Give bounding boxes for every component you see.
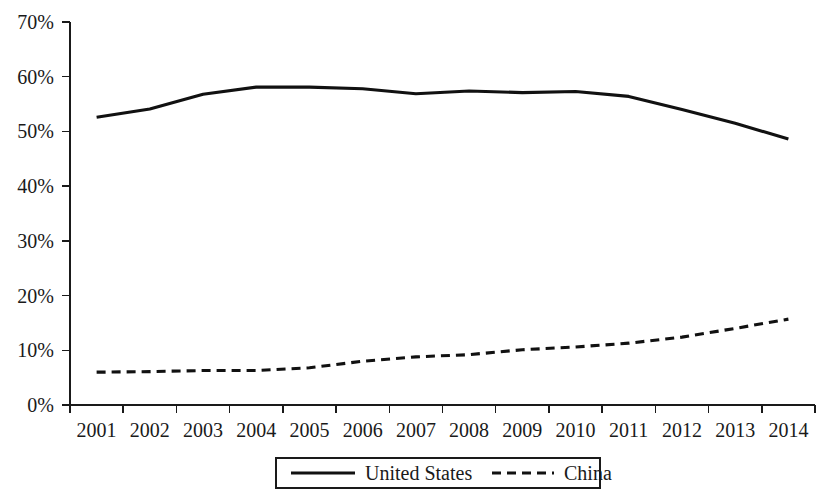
legend-label-china: China (564, 462, 612, 484)
y-axis-tick-labels: 0%10%20%30%40%50%60%70% (17, 11, 54, 416)
chart-canvas: 0%10%20%30%40%50%60%70% 2001200220032004… (0, 0, 826, 504)
series-line-china (97, 319, 789, 372)
x-axis-tick-labels: 2001200220032004200520062007200820092010… (77, 419, 809, 441)
x-tick-label: 2003 (183, 419, 223, 441)
x-tick-label: 2005 (289, 419, 329, 441)
x-tick-label: 2012 (662, 419, 702, 441)
x-tick-label: 2011 (609, 419, 648, 441)
line-chart: 0%10%20%30%40%50%60%70% 2001200220032004… (0, 0, 826, 504)
legend-label-united-states: United States (365, 462, 472, 484)
y-tick-label: 30% (17, 230, 54, 252)
y-axis-ticks (62, 22, 70, 405)
x-tick-label: 2009 (502, 419, 542, 441)
x-tick-label: 2004 (236, 419, 276, 441)
y-tick-label: 20% (17, 285, 54, 307)
x-tick-label: 2008 (449, 419, 489, 441)
x-tick-label: 2006 (343, 419, 383, 441)
x-tick-label: 2007 (396, 419, 436, 441)
y-tick-label: 70% (17, 11, 54, 33)
y-tick-label: 0% (27, 394, 54, 416)
x-tick-label: 2001 (77, 419, 117, 441)
y-tick-label: 10% (17, 339, 54, 361)
y-tick-label: 40% (17, 175, 54, 197)
legend: United States China (276, 458, 612, 488)
x-axis-ticks (70, 405, 815, 413)
y-tick-label: 60% (17, 66, 54, 88)
x-tick-label: 2014 (768, 419, 808, 441)
y-tick-label: 50% (17, 120, 54, 142)
x-tick-label: 2010 (556, 419, 596, 441)
series-line-united-states (97, 87, 789, 139)
x-tick-label: 2002 (130, 419, 170, 441)
x-tick-label: 2013 (715, 419, 755, 441)
